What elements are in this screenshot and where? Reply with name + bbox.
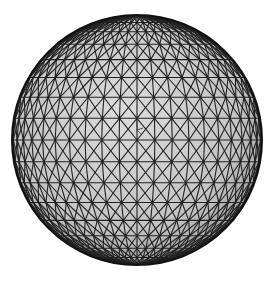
sphere-wireframe [0,0,276,282]
